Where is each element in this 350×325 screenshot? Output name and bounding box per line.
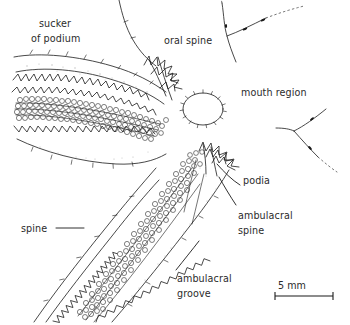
right-middle-spine-dotted (318, 157, 337, 172)
mouth-oval-outline (183, 93, 223, 125)
right-middle-spine-left (276, 128, 294, 131)
right-top-spine-group (221, 0, 304, 62)
right-top-spine-branch (227, 18, 266, 36)
leader-ambulacral-groove (176, 241, 199, 270)
upper-arm-lower-spinelets (31, 147, 133, 168)
mouth-region-group (180, 90, 226, 128)
right-middle-spine-lower (294, 131, 318, 157)
right-middle-spine-upper (294, 109, 326, 131)
label-mouth-region: mouth region (241, 87, 307, 98)
upper-arm-group (12, 50, 182, 168)
label-ambulacral-spine-line2: spine (238, 225, 264, 236)
lower-arm-outer-contour-right (112, 170, 229, 322)
leader-ambulacral-spine (219, 177, 236, 205)
mouth-radial-ticks (180, 90, 226, 128)
right-top-spine-dotted (266, 6, 304, 18)
labels-group: sucker of podium oral spine mouth region… (21, 18, 307, 299)
right-middle-spine-group (276, 109, 337, 172)
upper-arm-lower-contour (17, 139, 166, 164)
scale-bar-group: 5 mm (275, 280, 333, 300)
label-ambulacral-groove-line2: groove (177, 288, 211, 299)
upper-arm-outer-contour (14, 55, 166, 92)
scientific-illustration-figure: sucker of podium oral spine mouth region… (0, 0, 350, 325)
upper-arm-stipple-upper (26, 63, 147, 92)
label-ambulacral-groove-line1: ambulacral (177, 273, 232, 284)
label-sucker-line1: sucker (39, 18, 71, 29)
label-oral-spine: oral spine (164, 35, 212, 46)
label-podia: podia (243, 175, 270, 186)
label-ambulacral-spine-line1: ambulacral (238, 210, 293, 221)
upper-arm-tip-spine-cluster (144, 56, 182, 100)
right-top-spine-main (222, 3, 236, 62)
upper-arm-stipple-lower (39, 146, 148, 159)
right-top-spine-nodes (225, 18, 266, 31)
label-sucker-line2: of podium (31, 33, 80, 44)
right-top-spine-tip-fade (221, 0, 222, 3)
illustration-canvas: sucker of podium oral spine mouth region… (0, 0, 350, 325)
central-spine-line (119, 0, 156, 66)
scale-bar-label: 5 mm (278, 280, 306, 291)
lower-arm-tip-spine-cluster (199, 142, 239, 176)
central-spine-line-group (119, 0, 156, 66)
label-spine: spine (21, 223, 47, 234)
